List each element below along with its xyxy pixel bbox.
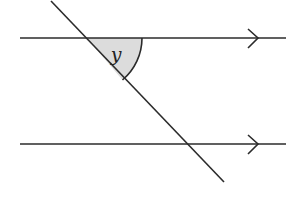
angle-y-label: y — [110, 43, 122, 65]
transversal-line — [51, 1, 224, 182]
parallel-lines-diagram: y — [0, 0, 306, 204]
